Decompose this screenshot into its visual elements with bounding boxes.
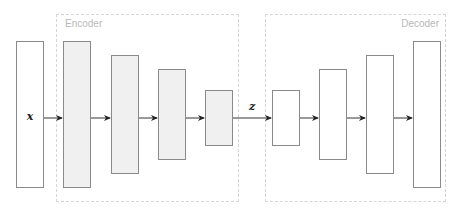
input-variable-label: x xyxy=(27,110,34,123)
arrows xyxy=(0,0,459,213)
latent-variable-label: z xyxy=(249,100,255,113)
